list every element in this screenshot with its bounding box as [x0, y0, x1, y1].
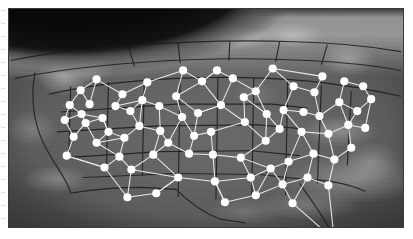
network-node [174, 173, 182, 181]
network-link [256, 68, 273, 91]
network-node [252, 191, 260, 199]
network-link [256, 184, 283, 195]
network-node [135, 122, 143, 130]
network-link [67, 156, 105, 168]
network-node [240, 93, 248, 101]
network-node [155, 102, 163, 110]
network-node [100, 163, 108, 171]
network-node [330, 156, 338, 164]
network-node [310, 88, 318, 96]
network-node [111, 102, 119, 110]
network-link [289, 132, 302, 162]
network-node [209, 151, 217, 159]
network-node [126, 107, 134, 115]
network-node [92, 75, 100, 83]
network-node [262, 137, 270, 145]
network-link [211, 122, 245, 132]
network-node [285, 158, 293, 166]
network-node [123, 193, 131, 201]
network-node [66, 101, 74, 109]
network-node [267, 164, 275, 172]
network-node [63, 152, 71, 160]
network-node [143, 78, 151, 86]
scan-margin-ticks [1, 10, 5, 220]
network-node [279, 180, 287, 188]
network-node [77, 86, 85, 94]
network-node [247, 173, 255, 181]
network-node [280, 106, 288, 114]
network-link [293, 203, 335, 227]
network-link [127, 193, 156, 197]
network-node [152, 189, 160, 197]
network-node [289, 82, 297, 90]
network-node [288, 199, 296, 207]
network-node [78, 110, 86, 118]
network-node [367, 95, 375, 103]
network-node [252, 87, 260, 95]
network-node [185, 150, 193, 158]
network-node [297, 128, 305, 136]
network-node [118, 90, 126, 98]
network-node [347, 144, 355, 152]
network-node [149, 151, 157, 159]
network-node [70, 133, 78, 141]
network-node [237, 154, 245, 162]
network-node [241, 118, 249, 126]
network-node [190, 132, 198, 140]
network-link [244, 97, 267, 114]
network-node [303, 173, 311, 181]
network-node [179, 66, 187, 74]
figure-canvas [0, 0, 413, 239]
network-node [344, 121, 352, 129]
network-node [61, 116, 69, 124]
network-link [328, 185, 334, 227]
network-node [86, 100, 94, 108]
network-link [221, 78, 233, 105]
network-node [98, 114, 106, 122]
network-node [263, 110, 271, 118]
network-node [207, 128, 215, 136]
network-node [213, 66, 221, 74]
network-node [315, 112, 323, 120]
network-node [269, 64, 277, 72]
network-link [127, 170, 131, 198]
network-link [115, 100, 142, 106]
network-link [225, 195, 256, 202]
network-node [115, 153, 123, 161]
network-link [256, 169, 271, 196]
network-node [92, 139, 100, 147]
network-node [318, 72, 326, 80]
network-node [120, 134, 128, 142]
network-node [359, 82, 367, 90]
network-link [215, 177, 251, 181]
network-node [178, 113, 186, 121]
network-link [105, 168, 128, 198]
network-node [221, 198, 229, 206]
network-node [211, 177, 219, 185]
network-node [335, 98, 343, 106]
network-link [241, 141, 266, 158]
network-node [353, 107, 361, 115]
network-overlay [9, 9, 403, 227]
network-node [276, 125, 284, 133]
network-node [299, 108, 307, 116]
network-link [147, 70, 183, 82]
network-link [97, 79, 123, 94]
network-node [324, 130, 332, 138]
network-node [340, 77, 348, 85]
network-node [198, 77, 206, 85]
network-link [221, 105, 245, 122]
network-node [138, 96, 146, 104]
network-node [361, 124, 369, 132]
network-node [229, 74, 237, 82]
network-link [168, 117, 182, 143]
network-node [164, 139, 172, 147]
network-node [156, 127, 164, 135]
network-node [172, 92, 180, 100]
geographic-borders [11, 41, 401, 227]
network-node [127, 165, 135, 173]
network-node [104, 128, 112, 136]
network-node [217, 101, 225, 109]
network-link [178, 177, 215, 181]
network-node [82, 119, 90, 127]
